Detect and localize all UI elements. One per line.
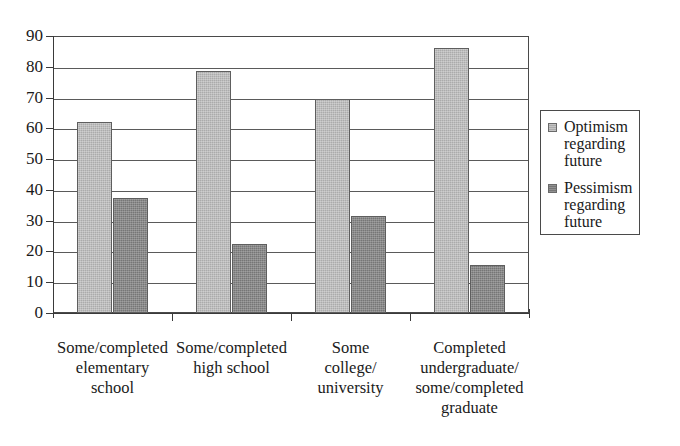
bar-pessimism-1 bbox=[232, 244, 267, 313]
bar-optimism-3 bbox=[434, 48, 469, 313]
y-axis-tick bbox=[46, 36, 54, 37]
bar-pessimism-0 bbox=[113, 198, 148, 313]
y-axis-line bbox=[53, 36, 54, 314]
bar-pessimism-3 bbox=[470, 265, 505, 313]
y-axis-tick bbox=[46, 67, 54, 68]
y-axis-tick-label: 50 bbox=[26, 150, 43, 167]
y-axis-tick-label: 10 bbox=[26, 273, 43, 290]
y-axis-tick bbox=[46, 282, 54, 283]
x-axis-endcap bbox=[53, 309, 54, 318]
y-axis-tick bbox=[46, 251, 54, 252]
y-axis-tick bbox=[46, 190, 54, 191]
legend-label: Optimism regarding future bbox=[564, 118, 628, 169]
x-axis-tick bbox=[172, 313, 173, 321]
x-axis-category-label: Completed undergraduate/ some/completed … bbox=[397, 338, 542, 418]
legend-item-pessimism[interactable]: Pessimism regarding future bbox=[548, 179, 632, 230]
x-axis-tick bbox=[291, 313, 292, 321]
y-axis-tick bbox=[46, 98, 54, 99]
legend-swatch-optimism-icon bbox=[548, 123, 557, 132]
y-axis-tick bbox=[46, 159, 54, 160]
y-axis-tick-label: 30 bbox=[26, 212, 43, 229]
bar-pessimism-2 bbox=[351, 216, 386, 313]
legend-item-optimism[interactable]: Optimism regarding future bbox=[548, 118, 628, 169]
legend-label: Pessimism regarding future bbox=[564, 179, 632, 230]
y-axis-tick-label: 60 bbox=[26, 119, 43, 136]
y-axis-tick-label: 0 bbox=[35, 304, 44, 321]
x-axis-tick bbox=[410, 313, 411, 321]
y-axis-tick-label: 80 bbox=[26, 58, 43, 75]
bar-optimism-2 bbox=[315, 99, 350, 313]
y-axis-tick bbox=[46, 221, 54, 222]
x-axis-endcap bbox=[529, 309, 530, 318]
legend: Optimism regarding futurePessimism regar… bbox=[540, 110, 640, 235]
bar-chart: 0102030405060708090 Some/completed eleme… bbox=[0, 0, 680, 446]
y-axis-tick-label: 70 bbox=[26, 89, 43, 106]
legend-swatch-pessimism-icon bbox=[548, 184, 557, 193]
y-axis-tick-label: 20 bbox=[26, 242, 43, 259]
y-axis-tick-label: 90 bbox=[26, 27, 43, 44]
y-axis-tick-label: 40 bbox=[26, 181, 43, 198]
bar-optimism-1 bbox=[196, 71, 231, 313]
bar-optimism-0 bbox=[77, 122, 112, 313]
y-axis-tick bbox=[46, 128, 54, 129]
